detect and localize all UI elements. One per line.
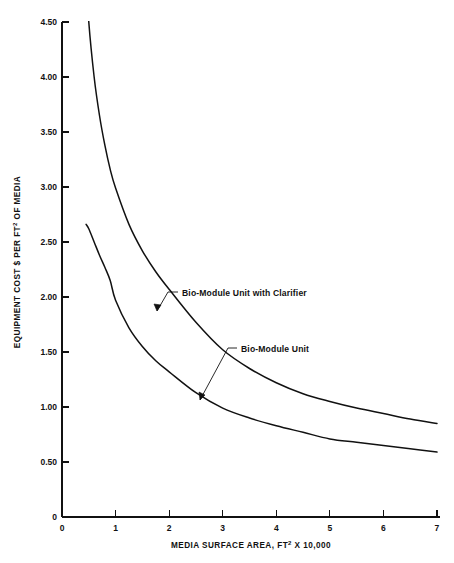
annotation-label-0: Bio-Module Unit with Clarifier xyxy=(182,288,307,298)
x-tick-label: 7 xyxy=(435,523,440,533)
y-axis-ticks: 00.501.001.502.002.503.003.504.004.50 xyxy=(40,17,69,522)
x-tick-label: 1 xyxy=(113,523,118,533)
data-curves xyxy=(86,0,437,452)
chart-container: 00.501.001.502.002.503.003.504.004.50 01… xyxy=(0,0,454,563)
x-tick-label: 2 xyxy=(167,523,172,533)
x-tick-label: 4 xyxy=(274,523,279,533)
y-tick-label: 2.00 xyxy=(40,292,57,302)
y-tick-label: 0.50 xyxy=(40,457,57,467)
y-tick-label: 3.00 xyxy=(40,182,57,192)
curve-annotations: Bio-Module Unit with ClarifierBio-Module… xyxy=(154,288,309,400)
annotation-label-1: Bio-Module Unit xyxy=(241,344,309,354)
y-axis-title: EQUIPMENT COST $ PER FT2 OF MEDIA xyxy=(12,176,22,348)
annotation-arrowhead-0 xyxy=(154,304,161,311)
x-tick-label: 5 xyxy=(327,523,332,533)
y-tick-label: 3.50 xyxy=(40,127,57,137)
annotation-leader-0 xyxy=(157,292,178,311)
x-axis-ticks: 01234567 xyxy=(60,510,440,533)
y-tick-label: 0 xyxy=(52,512,57,522)
chart-plot: 00.501.001.502.002.503.003.504.004.50 01… xyxy=(0,0,454,563)
series-curve-1 xyxy=(86,224,437,452)
y-tick-label: 2.50 xyxy=(40,237,57,247)
x-tick-label: 0 xyxy=(60,523,65,533)
y-tick-label: 4.50 xyxy=(40,17,57,27)
y-tick-label: 1.50 xyxy=(40,347,57,357)
x-tick-label: 3 xyxy=(220,523,225,533)
x-axis-title: MEDIA SURFACE AREA, FT2 X 10,000 xyxy=(171,540,331,550)
y-tick-label: 1.00 xyxy=(40,402,57,412)
series-curve-0 xyxy=(86,0,437,424)
x-tick-label: 6 xyxy=(381,523,386,533)
y-tick-label: 4.00 xyxy=(40,72,57,82)
